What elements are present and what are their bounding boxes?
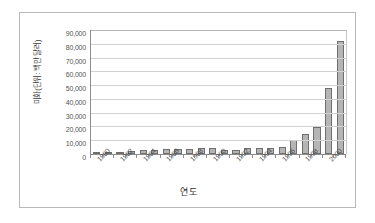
gridline: [91, 113, 346, 114]
gridline: [91, 44, 346, 45]
x-tick: [90, 155, 91, 158]
y-tick-label: 30,000: [46, 113, 86, 120]
x-tick: [264, 155, 265, 158]
bar-slot: [334, 30, 346, 154]
gridline: [91, 30, 346, 31]
x-tick: [241, 155, 242, 158]
y-tick-label: 70,000: [46, 58, 86, 65]
bar-slot: [242, 30, 254, 154]
gridline: [91, 71, 346, 72]
gridline: [91, 140, 346, 141]
x-tick: [333, 155, 334, 158]
x-tick: [148, 155, 149, 158]
y-tick-label: 40,000: [46, 99, 86, 106]
bar-slot: [91, 30, 103, 154]
bar-slot: [195, 30, 207, 154]
gridline: [91, 85, 346, 86]
y-tick-label: 10,000: [46, 140, 86, 147]
x-tick: [160, 155, 161, 158]
x-axis-tick-labels: 1980198219841986198819901992199419961998…: [90, 155, 345, 187]
gridline: [91, 58, 346, 59]
bar-slot: [103, 30, 115, 154]
x-tick: [275, 155, 276, 158]
bar-series: [91, 30, 346, 154]
x-axis-title: 연도: [20, 185, 357, 198]
x-tick: [345, 155, 346, 158]
gridline: [91, 126, 346, 127]
x-tick: [252, 155, 253, 158]
y-axis-title: 미화(단위: 백만 달러): [31, 10, 45, 134]
bar-slot: [311, 30, 323, 154]
x-tick: [102, 155, 103, 158]
y-tick-label: 80,000: [46, 44, 86, 51]
bar-slot: [265, 30, 277, 154]
y-tick-label: 20,000: [46, 126, 86, 133]
y-tick-label: 90,000: [46, 30, 86, 37]
x-tick: [183, 155, 184, 158]
y-axis-tick-labels: 90,00080,00070,00060,00050,00040,00030,0…: [46, 27, 86, 157]
gridline: [91, 99, 346, 100]
bar-slot: [172, 30, 184, 154]
bar-slot: [149, 30, 161, 154]
chart-frame: 미화(단위: 백만 달러) 90,00080,00070,00060,00050…: [19, 12, 356, 208]
x-tick: [125, 155, 126, 158]
x-tick: [287, 155, 288, 158]
x-tick: [322, 155, 323, 158]
x-tick: [113, 155, 114, 158]
x-tick: [229, 155, 230, 158]
bar-slot: [219, 30, 231, 154]
y-tick-label: 0: [46, 154, 86, 161]
x-tick: [310, 155, 311, 158]
x-tick: [218, 155, 219, 158]
y-tick-label: 60,000: [46, 71, 86, 78]
x-tick: [171, 155, 172, 158]
x-tick: [206, 155, 207, 158]
y-tick-label: 50,000: [46, 85, 86, 92]
bar-slot: [126, 30, 138, 154]
plot-area: [90, 30, 346, 155]
x-tick: [194, 155, 195, 158]
bar-slot: [288, 30, 300, 154]
x-tick: [299, 155, 300, 158]
x-tick: [136, 155, 137, 158]
